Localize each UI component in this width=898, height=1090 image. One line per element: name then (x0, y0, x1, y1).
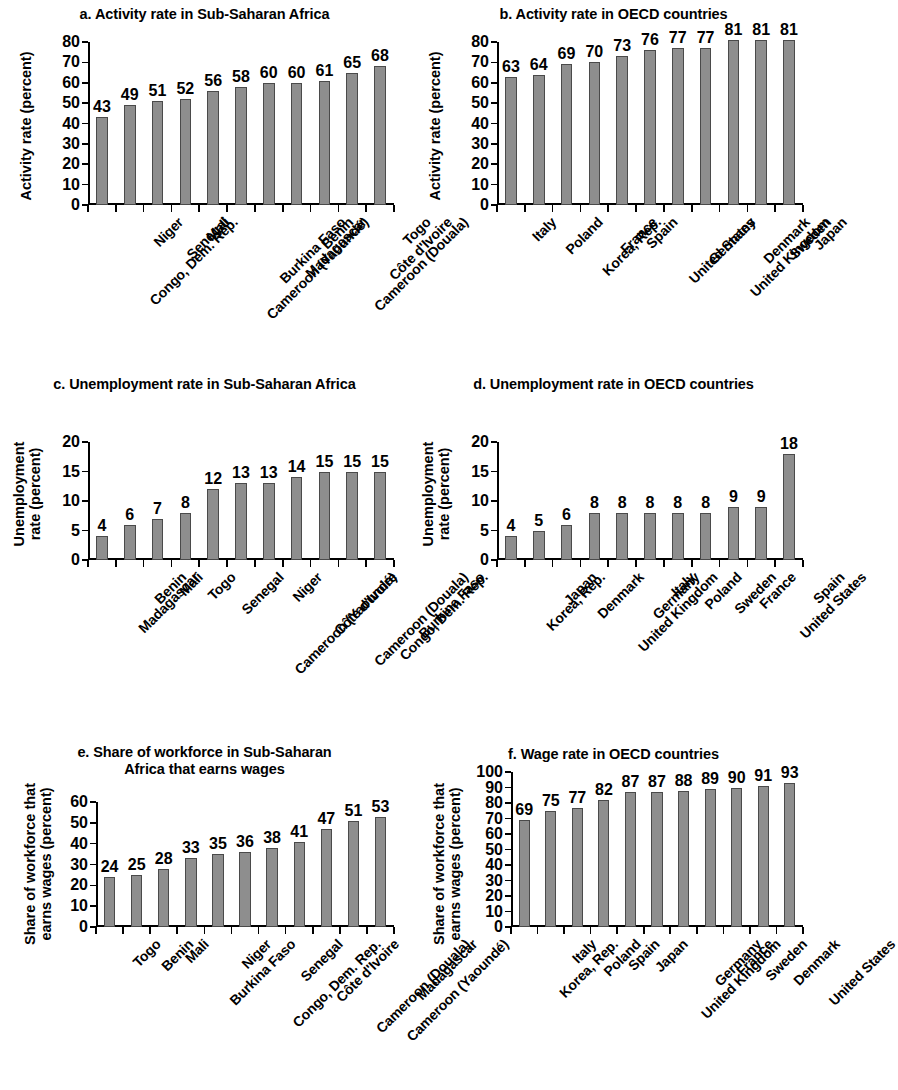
panel-b-bar-value: 73 (613, 38, 631, 54)
panel-c-bar[interactable]: 13 (263, 483, 275, 560)
panel-a-bar[interactable]: 60 (291, 83, 303, 205)
panel-a-y-tick-label: 10 (62, 177, 80, 193)
panel-d-bar[interactable]: 9 (728, 507, 740, 560)
panel-d-x-tick (663, 560, 665, 567)
panel-b-bar[interactable]: 81 (728, 40, 740, 205)
panel-d-bar[interactable]: 8 (700, 513, 712, 560)
panel-c-bar[interactable]: 12 (207, 489, 219, 560)
panel-a-bar[interactable]: 43 (96, 117, 108, 205)
panel-e-y-tick (90, 905, 96, 907)
panel-a-bar[interactable]: 68 (374, 66, 386, 205)
panel-f-bar[interactable]: 87 (625, 792, 636, 927)
panel-c-bar[interactable]: 8 (180, 513, 192, 560)
panel-b-bar[interactable]: 64 (533, 75, 545, 205)
panel-c-bar[interactable]: 7 (152, 519, 164, 560)
panel-e-x-tick (231, 927, 233, 934)
panel-c-bar[interactable]: 14 (291, 477, 303, 560)
panel-b-bar[interactable]: 73 (616, 56, 628, 205)
panel-a-bar[interactable]: 60 (263, 83, 275, 205)
panel-c-bars: 467812131314151515 (88, 442, 394, 560)
panel-e-bar[interactable]: 35 (212, 854, 223, 927)
panel-d-ylabel-line2: rate (percent) (436, 419, 452, 569)
panel-e-bar[interactable]: 53 (375, 817, 386, 927)
panel-b-bar-slot: 64 (525, 42, 553, 205)
panel-a: a. Activity rate in Sub-Saharan Africa A… (0, 0, 409, 370)
panel-b-bar[interactable]: 63 (505, 77, 517, 205)
panel-f-bar[interactable]: 69 (519, 820, 530, 927)
panel-e-bar[interactable]: 33 (185, 858, 196, 927)
panel-e-bar[interactable]: 47 (321, 829, 332, 927)
panel-b-bar[interactable]: 77 (700, 48, 712, 205)
panel-e-bar[interactable]: 41 (294, 842, 305, 927)
panel-c-bar-value: 15 (371, 454, 389, 470)
panel-b-bar[interactable]: 69 (561, 64, 573, 205)
panel-b-bar-value: 77 (669, 30, 687, 46)
panel-b-x-tick (552, 205, 554, 212)
panel-d-bar[interactable]: 6 (561, 525, 573, 560)
panel-a-bar[interactable]: 65 (346, 73, 358, 205)
panel-d-bar-value: 6 (562, 507, 571, 523)
panel-c-bar[interactable]: 15 (374, 472, 386, 561)
panel-d-x-tick (580, 560, 582, 567)
panel-c-bar[interactable]: 13 (235, 483, 247, 560)
panel-e-bar-value: 38 (263, 830, 281, 846)
panel-a-bar-slot: 51 (144, 42, 172, 205)
panel-c-bar-value: 12 (204, 471, 222, 487)
panel-e-bar[interactable]: 36 (239, 852, 250, 927)
panel-b-bar[interactable]: 77 (672, 48, 684, 205)
panel-d-bar[interactable]: 18 (783, 454, 795, 560)
panel-b-bar-value: 70 (585, 44, 603, 60)
panel-f-x-tick (749, 927, 751, 934)
panel-c-bar-slot: 15 (311, 442, 339, 560)
panel-e-bar[interactable]: 25 (131, 875, 142, 927)
panel-b-bar[interactable]: 76 (644, 50, 656, 205)
panel-b-y-tick-label: 80 (471, 34, 489, 50)
panel-f-bar[interactable]: 89 (705, 789, 716, 927)
panel-a-bar[interactable]: 52 (180, 99, 192, 205)
panel-f-bar-slot: 77 (564, 772, 591, 927)
panel-e-ylabel: Share of workforce that earns wages (per… (22, 764, 54, 964)
panel-a-bar[interactable]: 58 (235, 87, 247, 205)
panel-d-title: d. Unemployment rate in OECD countries (409, 376, 818, 393)
panel-c-y-tick-label: 10 (62, 493, 80, 509)
panel-a-bar[interactable]: 61 (319, 81, 331, 205)
panel-a-bar[interactable]: 49 (124, 105, 136, 205)
panel-b-bar[interactable]: 81 (783, 40, 795, 205)
panel-e-bar[interactable]: 51 (348, 821, 359, 927)
panel-d-bar[interactable]: 8 (672, 513, 684, 560)
panel-b-bar-slot: 77 (664, 42, 692, 205)
panel-f-bar[interactable]: 93 (784, 783, 795, 927)
panel-d-bar[interactable]: 9 (755, 507, 767, 560)
panel-f-bar[interactable]: 75 (545, 811, 556, 927)
panel-c-x-tick (143, 560, 145, 567)
panel-e-x-tick (258, 927, 260, 934)
panel-d-bar-value: 9 (757, 489, 766, 505)
panel-a-x-tick (338, 205, 340, 212)
panel-d-bar[interactable]: 5 (533, 531, 545, 561)
panel-e-bar[interactable]: 24 (104, 877, 115, 927)
panel-b-bar[interactable]: 70 (589, 62, 601, 205)
panel-d-bar[interactable]: 8 (616, 513, 628, 560)
panel-e-bar[interactable]: 28 (158, 869, 169, 927)
panel-f-bar[interactable]: 87 (651, 792, 662, 927)
panel-f-bar[interactable]: 90 (731, 788, 742, 928)
panel-b-bar[interactable]: 81 (755, 40, 767, 205)
panel-c-bar[interactable]: 4 (96, 536, 108, 560)
panel-d-x-tick (719, 560, 721, 567)
panel-c-bar[interactable]: 6 (124, 525, 136, 560)
panel-f-bar[interactable]: 77 (572, 808, 583, 927)
panel-a-x-tick (282, 205, 284, 212)
panel-e-bar[interactable]: 38 (266, 848, 277, 927)
panel-f-bar[interactable]: 82 (598, 800, 609, 927)
panel-d-bar[interactable]: 8 (589, 513, 601, 560)
panel-e-bars: 2425283335363841475153 (96, 802, 394, 927)
panel-c-bar[interactable]: 15 (319, 472, 331, 561)
panel-c-bar[interactable]: 15 (346, 472, 358, 561)
panel-a-bar[interactable]: 51 (152, 101, 164, 205)
panel-f-bar[interactable]: 91 (758, 786, 769, 927)
panel-d-bar[interactable]: 8 (644, 513, 656, 560)
panel-f-bar[interactable]: 88 (678, 791, 689, 927)
panel-f: f. Wage rate in OECD countries Share of … (409, 740, 818, 1090)
panel-a-bar[interactable]: 56 (207, 91, 219, 205)
panel-d-bar[interactable]: 4 (505, 536, 517, 560)
